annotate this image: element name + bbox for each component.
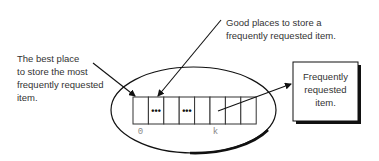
best-place-line-2: to store the most xyxy=(17,66,88,77)
good-places-line-2: frequently requested item. xyxy=(226,30,336,41)
best-place-annotation: The best place to store the most frequen… xyxy=(17,53,104,103)
array-cell-4 xyxy=(195,97,210,124)
item-box-line-1: Frequently xyxy=(303,71,348,82)
array-cell-7 xyxy=(241,97,256,124)
array-cell-6 xyxy=(225,97,240,124)
array-cell-2 xyxy=(164,97,179,124)
ellipsis-cell-3: ••• xyxy=(182,106,191,116)
good-places-arrow xyxy=(158,20,221,96)
item-box: Frequently requested item. xyxy=(293,62,361,124)
index-label-0: 0 xyxy=(138,127,143,137)
array-cell-0 xyxy=(133,97,148,124)
item-box-line-2: requested xyxy=(304,84,346,95)
best-place-line-4: item. xyxy=(17,92,38,103)
array-cell-5 xyxy=(210,97,225,124)
item-box-line-3: item. xyxy=(315,97,336,108)
cache-diagram: ••• ••• 0 k The best place to store the … xyxy=(0,0,379,161)
best-place-line-3: frequently requested xyxy=(17,79,104,90)
best-place-line-1: The best place xyxy=(17,53,79,64)
good-places-line-1: Good places to store a xyxy=(226,17,322,28)
index-label-k: k xyxy=(213,127,218,137)
ellipsis-cell-1: ••• xyxy=(151,106,160,116)
good-places-annotation: Good places to store a frequently reques… xyxy=(226,17,336,41)
array: ••• ••• 0 k xyxy=(133,97,256,137)
